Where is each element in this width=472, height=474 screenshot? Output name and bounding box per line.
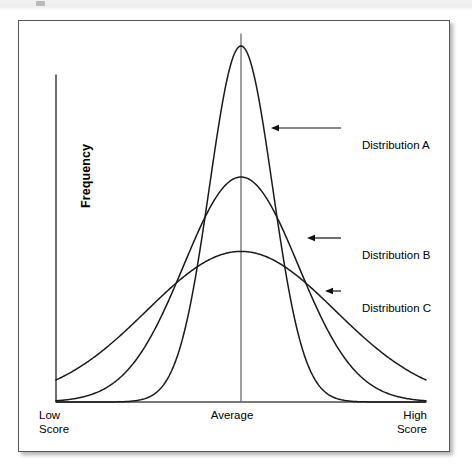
callout-label-distribution-c: Distribution C: [362, 302, 431, 314]
callout-arrow-head: [307, 235, 315, 241]
x-axis-tick-high: High Score: [353, 408, 427, 436]
toolbar-nub-icon: [36, 1, 45, 6]
callout-label-distribution-a: Distribution A: [362, 139, 430, 151]
callout-arrow-head: [271, 125, 279, 131]
callout-arrow-distribution-a: [271, 125, 341, 131]
callout-arrow-distribution-b: [307, 235, 341, 241]
x-axis-tick-low: Low Score: [39, 408, 69, 436]
x-axis-tick-average: Average: [187, 408, 277, 422]
callout-arrow-head: [325, 288, 333, 294]
callout-label-distribution-b: Distribution B: [362, 249, 430, 261]
figure-panel: Frequency Low Score Average High Score D…: [18, 20, 450, 452]
callout-arrow-distribution-c: [325, 288, 341, 294]
y-axis-label: Frequency: [79, 121, 93, 231]
distribution-plot: [19, 21, 451, 453]
cropped-toolbar-strip: [0, 0, 472, 10]
